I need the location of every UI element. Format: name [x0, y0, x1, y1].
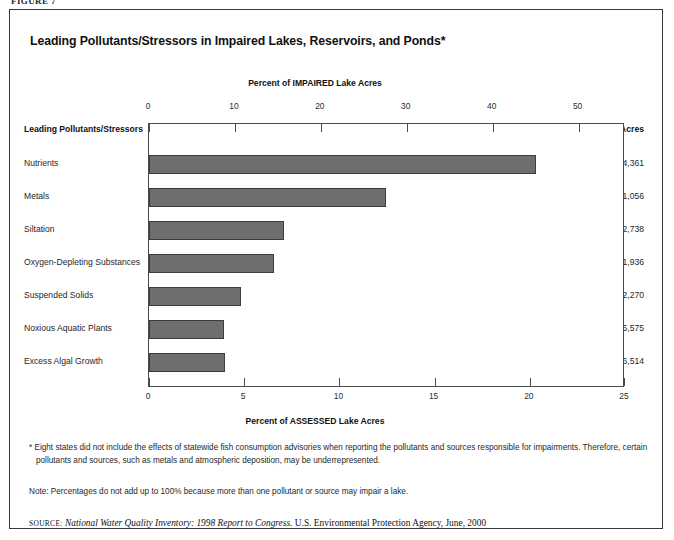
category-label: Siltation	[24, 224, 55, 234]
bar	[149, 221, 284, 240]
bottom-axis-title: Percent of ASSESSED Lake Acres	[0, 416, 641, 426]
source-label: source:	[29, 519, 63, 528]
top-axis-tick	[493, 124, 494, 132]
bar	[149, 188, 386, 207]
category-label: Metals	[24, 191, 49, 201]
top-axis-title: Percent of IMPAIRED Lake Acres	[0, 78, 641, 88]
top-axis-tick	[407, 124, 408, 132]
page-title: Leading Pollutants/Stressors in Impaired…	[30, 34, 445, 48]
top-axis-tick-label: 30	[401, 101, 410, 111]
bottom-axis-tick	[530, 378, 531, 386]
note-text: Note: Percentages do not add up to 100% …	[29, 486, 649, 498]
bar	[149, 155, 536, 174]
top-axis-tick-label: 50	[573, 101, 582, 111]
bottom-axis-tick-label: 15	[429, 391, 438, 401]
bar	[149, 320, 224, 339]
chart-plot-area	[148, 123, 624, 387]
category-label: Suspended Solids	[24, 290, 93, 300]
bottom-axis-tick	[624, 378, 625, 386]
bottom-axis-tick	[435, 378, 436, 386]
top-axis-tick-label: 0	[146, 101, 151, 111]
category-column-header: Leading Pollutants/Stressors	[24, 124, 143, 134]
top-axis-tick-label: 20	[315, 101, 324, 111]
bottom-axis-tick-label: 20	[524, 391, 533, 401]
source-title: National Water Quality Inventory: 1998 R…	[65, 518, 292, 528]
category-label: Oxygen-Depleting Substances	[24, 257, 140, 267]
category-label: Excess Algal Growth	[24, 356, 103, 366]
top-axis-tick	[235, 124, 236, 132]
figure-box: Leading Pollutants/Stressors in Impaired…	[9, 9, 663, 529]
category-label: Nutrients	[24, 158, 58, 168]
bar	[149, 353, 225, 372]
bottom-axis-tick-label: 0	[146, 391, 151, 401]
footnote-text: * Eight states did not include the effec…	[29, 442, 656, 467]
bottom-axis-tick-label: 5	[241, 391, 246, 401]
top-axis-tick	[579, 124, 580, 132]
bottom-axis-tick	[244, 378, 245, 386]
bar	[149, 287, 241, 306]
source-rest: U.S. Environmental Protection Agency, Ju…	[295, 518, 486, 528]
figure-caption: FIGURE 7	[11, 0, 56, 6]
top-axis-tick	[321, 124, 322, 132]
bar	[149, 254, 274, 273]
category-label: Noxious Aquatic Plants	[24, 323, 112, 333]
bottom-axis-tick	[339, 378, 340, 386]
top-axis-tick	[149, 124, 150, 132]
top-axis-tick-label: 40	[487, 101, 496, 111]
bottom-axis-tick-label: 10	[334, 391, 343, 401]
top-axis-tick-label: 10	[229, 101, 238, 111]
bottom-axis-tick-label: 25	[619, 391, 628, 401]
source-line: source: National Water Quality Inventory…	[29, 518, 649, 528]
bottom-axis-tick	[149, 378, 150, 386]
